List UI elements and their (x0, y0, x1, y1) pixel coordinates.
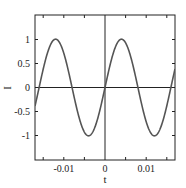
sine-chart: 1 0.5 0 -0.5 -1 -0.01 0 0.01 t I (0, 0, 186, 188)
x-axis-label: t (103, 173, 106, 185)
y-axis-label: I (1, 86, 13, 90)
x-tick-label: 0.01 (137, 163, 155, 174)
y-tick-label: 0.5 (18, 58, 31, 69)
y-tick-label: -0.5 (14, 106, 30, 117)
y-tick-label: -1 (22, 130, 30, 141)
y-tick-label: 0 (25, 82, 30, 93)
x-tick-label: -0.01 (53, 163, 74, 174)
y-tick-label: 1 (25, 34, 30, 45)
